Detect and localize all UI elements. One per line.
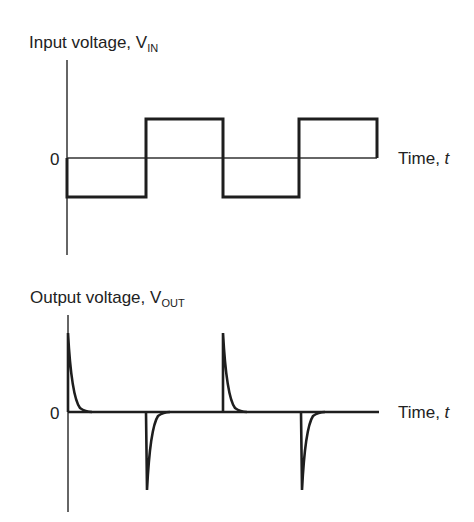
output-title-subscript: OUT	[161, 297, 184, 309]
output-spike-positive-2	[223, 333, 247, 412]
diagram-canvas	[0, 0, 474, 522]
output-spike-negative-2	[301, 412, 325, 490]
output-zero-label: 0	[50, 405, 59, 422]
output-plot	[68, 315, 379, 512]
output-spike-positive-1	[68, 333, 92, 412]
output-title: Output voltage, VOUT	[30, 289, 185, 309]
output-time-label-text: Time,	[398, 403, 445, 422]
input-time-label-text: Time,	[398, 149, 445, 168]
input-title-subscript: IN	[147, 42, 158, 54]
input-zero-label: 0	[50, 151, 59, 168]
output-time-label: Time, t	[398, 404, 449, 421]
input-title-text: Input voltage, V	[29, 33, 147, 52]
input-time-variable: t	[445, 149, 450, 168]
output-title-text: Output voltage, V	[30, 288, 161, 307]
output-spike-negative-1	[146, 412, 170, 490]
input-time-label: Time, t	[398, 150, 449, 167]
input-plot	[67, 60, 377, 255]
output-time-variable: t	[445, 403, 450, 422]
input-title: Input voltage, VIN	[29, 34, 158, 54]
